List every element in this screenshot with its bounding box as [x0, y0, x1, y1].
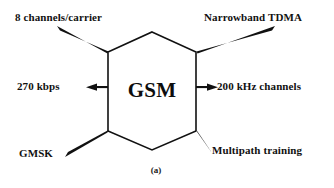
feature-label-270-kbps: 270 kbps [17, 80, 60, 92]
connector-200-khz-channels [196, 84, 218, 91]
feature-label-narrowband-tdma: Narrowband TDMA [204, 11, 302, 23]
connector-narrowband-tdma [197, 26, 276, 54]
feature-label-multipath-training: Multipath training [212, 144, 302, 156]
connector-multipath-training [197, 130, 213, 153]
connector-270-kbps [86, 84, 108, 91]
gsm-feature-diagram: 8 channels/carrier Narrowband TDMA 270 k… [0, 0, 334, 188]
figure-caption: (a) [126, 165, 186, 176]
feature-label-200-khz-channels: 200 kHz channels [217, 80, 301, 92]
feature-label-8-channels: 8 channels/carrier [15, 11, 102, 23]
connector-8-channels [57, 26, 109, 54]
feature-label-gmsk: GMSK [19, 147, 53, 159]
gsm-center-label: GSM [108, 78, 196, 102]
connector-gmsk [65, 130, 109, 157]
